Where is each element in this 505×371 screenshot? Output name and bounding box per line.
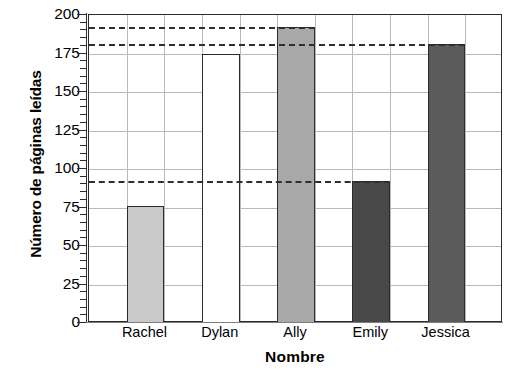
x-axis-line [86,322,503,323]
x-axis-tick-labels: RachelDylanAllyEmilyJessica [88,325,502,347]
bar-ally [277,27,315,323]
y-tick-major [77,14,86,15]
bar-jessica [428,44,466,323]
reference-line-emily [89,181,390,183]
y-tick-label: 75 [34,199,80,215]
bar-emily [352,181,390,323]
y-tick-label: 125 [34,122,80,138]
y-tick-label: 175 [34,45,80,61]
y-tick-label: 100 [34,160,80,176]
vertical-gridline [240,15,241,321]
vertical-gridline [465,15,466,321]
bar-rachel [127,206,165,323]
bar-chart: Número de páginas leídas 025507510012515… [0,0,505,371]
x-axis-title: Nombre [88,348,502,366]
y-tick-label: 200 [34,6,80,22]
y-tick-major [77,91,86,92]
reference-line-jessica [89,44,465,46]
y-tick-label: 50 [34,237,80,253]
y-axis-tick-labels: 0255075100125150175200 [34,0,80,371]
y-tick-major [77,130,86,131]
plot-area [88,14,502,322]
y-axis-line [86,13,87,323]
y-tick-label: 0 [34,314,80,330]
reference-line-ally [89,27,315,29]
y-tick-label: 150 [34,83,80,99]
y-tick-major [77,168,86,169]
y-tick-major [77,207,86,208]
y-axis-ticks [77,0,86,371]
x-tick-label-jessica: Jessica [399,325,493,340]
y-tick-major [77,284,86,285]
y-tick-label: 25 [34,276,80,292]
y-tick-major [77,245,86,246]
y-tick-major [77,53,86,54]
vertical-gridline [390,15,391,321]
vertical-gridline [164,15,165,321]
y-tick-major [77,322,86,323]
bar-dylan [202,54,240,324]
vertical-gridline [315,15,316,321]
